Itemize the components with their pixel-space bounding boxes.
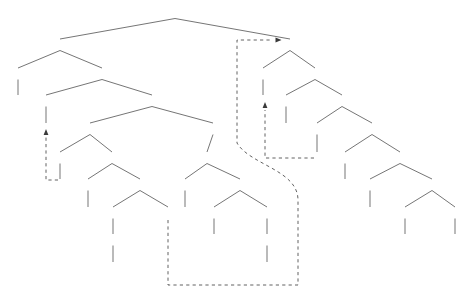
branch-n0-n29 [175, 19, 290, 40]
branch-n7-n9 [152, 107, 213, 124]
movement-arrows [44, 38, 314, 285]
branch-n22-n25 [240, 191, 267, 208]
branch-n14-n17 [140, 191, 168, 208]
arrowhead-verb-raising [44, 129, 49, 135]
branch-n43-n45 [405, 191, 432, 208]
branch-n9-n20 [207, 135, 213, 153]
branch-n11-n13 [88, 164, 112, 180]
branch-n1-n2 [18, 51, 60, 69]
branch-n1-n3 [60, 51, 102, 69]
branch-n40-n42 [370, 164, 400, 180]
movement-path-extraposition-relative-clause [168, 40, 298, 285]
branch-n37-n39 [345, 135, 372, 153]
branch-n20-n21 [185, 164, 207, 180]
branch-n0-n1 [60, 19, 175, 40]
arrowhead-wh-movement-that [263, 102, 268, 108]
movement-path-wh-movement-that [265, 110, 314, 158]
branch-n29-n31 [290, 51, 315, 69]
branch-n7-n8 [90, 107, 152, 124]
branch-n8-n10 [60, 135, 90, 153]
tree-lines-layer [0, 0, 473, 295]
branch-n11-n14 [112, 164, 140, 180]
branch-n31-n34 [315, 80, 342, 96]
branch-n3-n5 [46, 80, 102, 96]
branch-n29-n30 [263, 51, 290, 69]
branch-lines [18, 19, 455, 263]
branch-n34-n36 [317, 107, 342, 124]
branch-n8-n11 [90, 135, 112, 153]
branch-n22-n24 [214, 191, 240, 208]
branch-n3-n7 [102, 80, 152, 96]
branch-n40-n43 [400, 164, 432, 180]
branch-n37-n40 [372, 135, 400, 153]
branch-n34-n37 [342, 107, 372, 124]
branch-n14-n16 [113, 191, 140, 208]
arrowhead-extraposition-relative-clause [276, 38, 282, 43]
branch-n20-n22 [207, 164, 240, 180]
syntax-tree-diagram [0, 0, 473, 295]
branch-n43-n46 [432, 191, 455, 208]
movement-path-verb-raising [46, 137, 58, 180]
branch-n31-n33 [286, 80, 315, 96]
